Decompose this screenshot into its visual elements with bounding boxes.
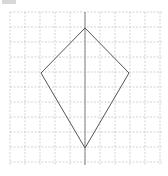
kite-diagram [0,0,168,176]
grid-lines [10,12,162,165]
